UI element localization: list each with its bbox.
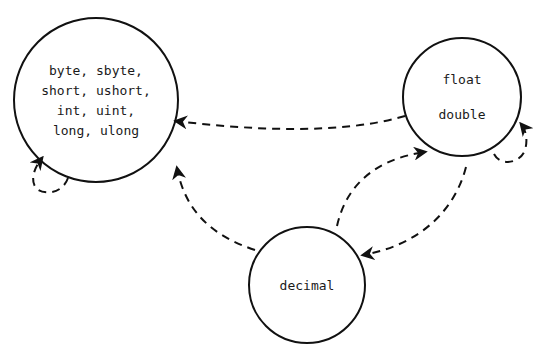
node-integral-line-1: byte, sbyte, (49, 63, 143, 78)
edge-floating-to-integral (176, 116, 405, 129)
node-integral-line-4: long, ulong (53, 123, 139, 138)
node-decimal-line-1: decimal (280, 278, 335, 293)
node-floating: float double (403, 38, 521, 156)
edge-decimal-to-floating (337, 152, 425, 226)
edge-floating-to-decimal (363, 167, 466, 255)
node-integral-line-2: short, ushort, (41, 83, 151, 98)
diagram-svg: byte, sbyte, short, ushort, int, uint, l… (0, 0, 552, 364)
edge-decimal-to-integral (177, 168, 255, 250)
node-decimal: decimal (249, 227, 365, 343)
node-floating-line-1: float (442, 72, 481, 87)
node-floating-line-2: double (439, 107, 486, 122)
conversion-diagram: byte, sbyte, short, ushort, int, uint, l… (0, 0, 552, 364)
node-integral-line-3: int, uint, (57, 103, 135, 118)
node-integral: byte, sbyte, short, ushort, int, uint, l… (14, 18, 178, 182)
